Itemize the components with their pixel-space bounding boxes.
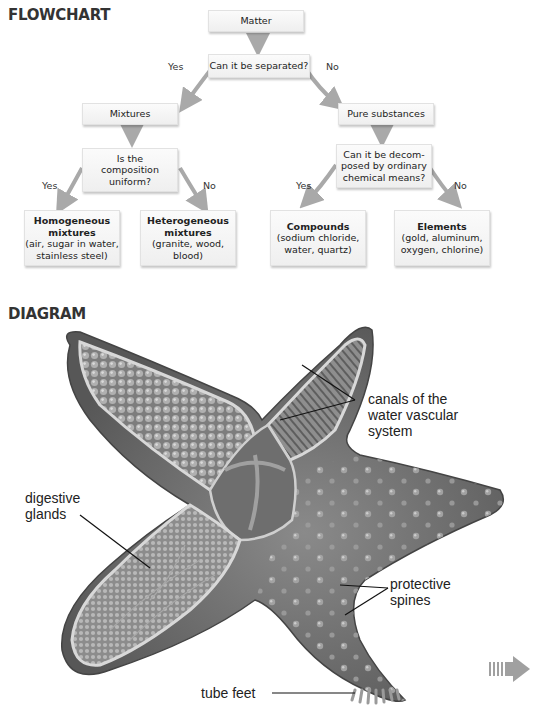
starfish-illustration [0,0,540,714]
label-protective-spines: protective spines [390,576,451,608]
label-tube-feet: tube feet [201,685,256,701]
label-digestive-glands: digestive glands [25,490,80,522]
label-canals-water-vascular-system: canals of the water vascular system [368,391,458,439]
